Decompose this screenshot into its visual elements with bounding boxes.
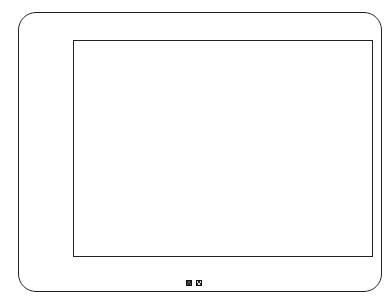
legend-swatch-costs <box>196 280 202 286</box>
plot-area <box>73 40 373 257</box>
legend <box>0 280 388 286</box>
legend-swatch-units <box>186 280 192 286</box>
